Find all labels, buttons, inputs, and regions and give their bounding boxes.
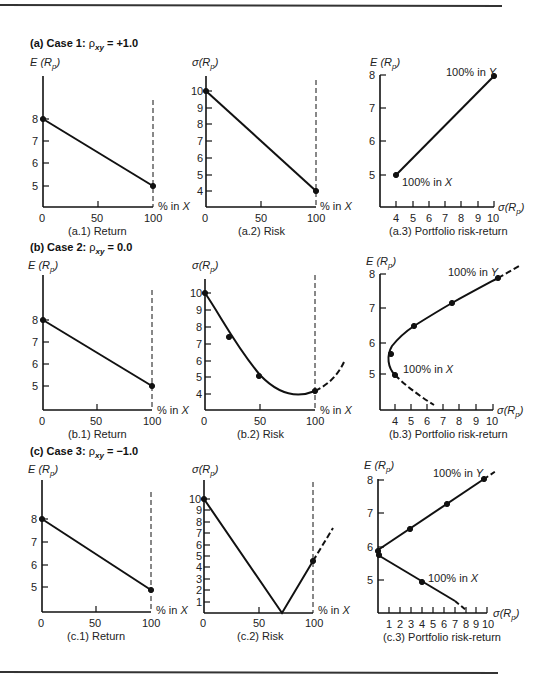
svg-text:10: 10 [191,85,203,97]
svg-text:σ(Rp): σ(Rp) [493,607,520,622]
svg-text:5: 5 [32,380,38,392]
svg-text:9: 9 [197,102,203,114]
svg-text:8: 8 [32,314,38,326]
svg-text:8: 8 [31,513,37,525]
svg-text:0: 0 [39,212,45,224]
svg-text:4: 4 [419,618,425,630]
svg-text:0: 0 [200,617,206,629]
svg-text:5: 5 [369,368,375,380]
svg-text:% in X: % in X [158,200,190,212]
svg-text:σ(Rp): σ(Rp) [192,56,219,71]
svg-text:6: 6 [426,212,432,224]
svg-text:5: 5 [32,180,38,192]
svg-text:50: 50 [255,212,267,224]
svg-text:(c.1) Return: (c.1) Return [67,630,125,642]
svg-text:8: 8 [458,212,464,224]
svg-text:9: 9 [196,504,202,516]
svg-text:2: 2 [397,618,403,630]
svg-text:5: 5 [430,618,436,630]
svg-text:100% in Y: 100% in Y [448,266,499,278]
svg-text:1: 1 [196,596,202,608]
svg-text:7: 7 [442,212,448,224]
caption-a1: (a.1) Return [68,225,127,237]
svg-text:7: 7 [31,536,37,548]
svg-text:5: 5 [196,371,202,383]
svg-text:8: 8 [197,118,203,130]
svg-text:8: 8 [367,474,373,486]
svg-text:7: 7 [440,415,446,427]
svg-text:4: 4 [196,561,202,573]
svg-text:8: 8 [456,415,462,427]
svg-text:6: 6 [197,152,203,164]
svg-text:3: 3 [408,618,414,630]
svg-text:0: 0 [38,617,44,629]
svg-text:6: 6 [424,415,430,427]
svg-text:100: 100 [143,415,161,427]
svg-text:7: 7 [367,507,373,519]
chart-a2-risk: σ(Rp) 10987654 050100 % in X (a.2) Risk [191,56,352,237]
svg-text:6: 6 [196,355,202,367]
svg-text:4: 4 [196,388,202,400]
svg-text:% in X: % in X [318,604,350,616]
svg-text:10: 10 [486,415,498,427]
svg-text:100: 100 [144,212,162,224]
top-rule [0,5,502,6]
svg-text:(b.3) Portfolio risk-return: (b.3) Portfolio risk-return [389,428,508,440]
figure-canvas: (a) Case 1: ρxy = +1.0 (b) Case 2: ρxy =… [0,0,548,681]
svg-text:6: 6 [369,337,375,349]
svg-text:σ(Rp): σ(Rp) [192,259,219,274]
svg-text:0: 0 [39,415,45,427]
svg-text:100: 100 [307,212,325,224]
svg-text:8: 8 [196,321,202,333]
chart-c3-portfolio: E (Rp) 8765 12345678910 σ(Rp) 100% in Y … [364,459,520,643]
svg-text:(a.2) Risk: (a.2) Risk [238,225,286,237]
svg-text:100% in X: 100% in X [403,363,454,375]
annotation-100-x: 100% in X [402,176,453,188]
chart-a3-portfolio: E (Rp) 8765 45678910 σ(Rp) 100% in Y 100… [369,56,525,237]
chart-a1-return: E (Rp) 8765 050100 % in X (a.1) Return [30,56,190,237]
svg-text:7: 7 [32,336,38,348]
svg-text:8: 8 [369,268,375,280]
svg-text:50: 50 [89,617,101,629]
svg-text:5: 5 [410,212,416,224]
svg-text:7: 7 [452,618,458,630]
svg-text:(b.2) Risk: (b.2) Risk [237,428,285,440]
svg-text:4: 4 [197,185,203,197]
svg-text:7: 7 [196,527,202,539]
svg-text:5: 5 [31,581,37,593]
svg-text:10: 10 [482,618,494,630]
bottom-rule [0,672,498,673]
svg-text:100% in X: 100% in X [428,572,479,584]
svg-text:5: 5 [408,415,414,427]
svg-text:5: 5 [369,169,375,181]
svg-text:50: 50 [90,415,102,427]
chart-b3-portfolio: E (Rp) 8765 45678910 σ(Rp) 100% in Y 100… [366,255,524,440]
svg-text:(b.1) Return: (b.1) Return [68,428,127,440]
svg-text:9: 9 [196,304,202,316]
svg-text:4: 4 [393,212,399,224]
annotation-100-y: 100% in Y [446,66,497,78]
svg-text:0: 0 [202,212,208,224]
svg-text:6: 6 [31,559,37,571]
svg-text:E (Rp): E (Rp) [364,459,394,474]
svg-text:5: 5 [197,169,203,181]
svg-text:6: 6 [367,541,373,553]
svg-text:7: 7 [196,338,202,350]
svg-text:% in X: % in X [156,604,188,616]
svg-text:% in X: % in X [320,404,352,416]
svg-text:0: 0 [201,415,207,427]
case-a-title: (a) Case 1: ρxy = +1.0 [30,37,138,52]
svg-text:8: 8 [463,618,469,630]
svg-text:σ(Rp): σ(Rp) [497,404,524,419]
chart-c2-risk: σ(Rp) 10987654321 050100 % in X (c.2) Ri… [189,463,350,642]
chart-c1-return: E (Rp) 8765 050100 % in X (c.1) Return [28,463,188,642]
case-b-title: (b) Case 2: ρxy = 0.0 [30,241,132,256]
svg-text:10: 10 [487,212,499,224]
y-axis-label: E (Rp) [30,56,60,71]
svg-text:6: 6 [32,157,38,169]
svg-text:9: 9 [473,415,479,427]
svg-text:7: 7 [32,135,38,147]
svg-text:100: 100 [306,415,324,427]
svg-text:100% in Y: 100% in Y [433,467,484,479]
svg-text:(c.2) Risk: (c.2) Risk [237,630,284,642]
